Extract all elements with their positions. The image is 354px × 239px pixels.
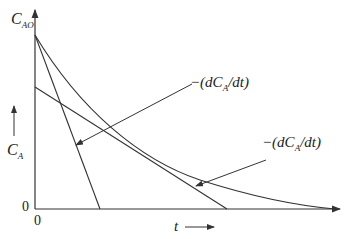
y-side-label-ca: CA — [7, 141, 23, 161]
x-axis-label-t: t — [174, 218, 178, 235]
y-axis-label-cao: CAO — [11, 10, 34, 30]
origin-y-label: 0 — [22, 199, 29, 215]
concentration-time-diagram: CAO CA 0 0 t −(dCA/dt) −(dCA/dt) — [0, 0, 354, 239]
annotation-arrow-1 — [76, 84, 192, 145]
annotation-label-1: −(dCA/dt) — [190, 74, 249, 93]
origin-x-label: 0 — [34, 213, 41, 229]
annotation-arrow-2 — [196, 160, 266, 186]
annotation-label-2: −(dCA/dt) — [262, 134, 321, 153]
diagram-graphics — [0, 0, 354, 239]
mid-tangent-line — [35, 87, 227, 209]
